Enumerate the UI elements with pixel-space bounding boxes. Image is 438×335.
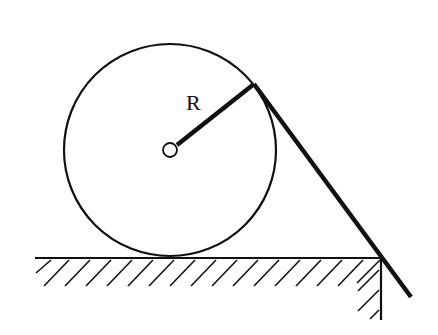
center-pin [163,143,177,157]
wall-hatching [358,270,379,319]
radius-label: R [186,90,201,115]
physics-diagram: R [0,0,438,335]
ground-hatching [36,260,380,286]
rod [254,84,411,297]
